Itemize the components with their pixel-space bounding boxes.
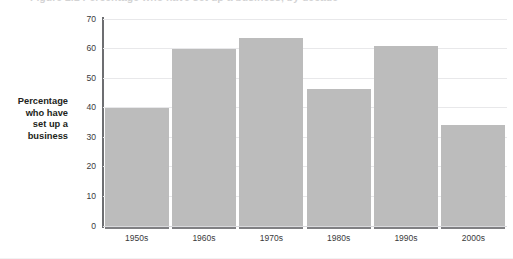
- x-axis-rule-1990s: [374, 227, 438, 229]
- y-axis-caption-line-4: business: [0, 131, 68, 143]
- bar-2000s: [441, 125, 505, 226]
- x-axis-rules-group: [103, 227, 507, 230]
- bar-1950s: [105, 108, 169, 226]
- x-tick-label-1960s: 1960s: [172, 233, 236, 244]
- y-tick-label-50: 50: [66, 74, 96, 83]
- x-tick-label-1980s: 1980s: [307, 233, 371, 244]
- y-tick-label-30: 30: [66, 133, 96, 142]
- x-axis-rule-1970s: [239, 227, 303, 229]
- x-axis-rule-1980s: [307, 227, 371, 229]
- x-tick-label-2000s: 2000s: [441, 233, 505, 244]
- bar-1990s: [374, 46, 438, 226]
- x-tick-label-1990s: 1990s: [374, 233, 438, 244]
- y-axis-caption-line-1: Percentage: [0, 96, 68, 108]
- y-tick-label-10: 10: [66, 192, 96, 201]
- x-axis-rule-2000s: [441, 227, 505, 229]
- y-axis-caption: Percentage who have set up a business: [0, 96, 68, 142]
- bars-group: [103, 19, 507, 226]
- chart-title-text: Figure 2.1 Percentage who have set up a …: [30, 0, 338, 3]
- x-tick-labels-group: 1950s1960s1970s1980s1990s2000s: [103, 233, 507, 249]
- x-axis-rule-1950s: [105, 227, 169, 229]
- y-tick-label-60: 60: [66, 44, 96, 53]
- y-tick-label-70: 70: [66, 15, 96, 24]
- y-tick-label-0: 0: [66, 222, 96, 231]
- x-axis-rule-1960s: [172, 227, 236, 229]
- bar-1980s: [307, 89, 371, 227]
- plot-area: 010203040506070: [103, 19, 507, 226]
- y-tick-label-40: 40: [66, 103, 96, 112]
- x-tick-label-1950s: 1950s: [105, 233, 169, 244]
- y-axis-caption-line-2: who have: [0, 108, 68, 120]
- chart-title-cutoff: Figure 2.1 Percentage who have set up a …: [0, 0, 513, 5]
- bar-1960s: [172, 49, 236, 226]
- bar-1970s: [239, 38, 303, 226]
- chart-figure: Figure 2.1 Percentage who have set up a …: [0, 0, 513, 259]
- y-axis-caption-line-3: set up a: [0, 119, 68, 131]
- y-tick-label-20: 20: [66, 162, 96, 171]
- x-tick-label-1970s: 1970s: [239, 233, 303, 244]
